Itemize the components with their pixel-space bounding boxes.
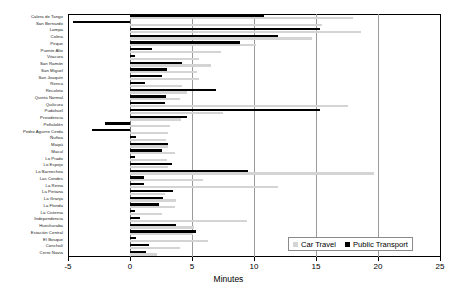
bar-car-travel xyxy=(130,24,322,26)
bar-row xyxy=(68,169,440,176)
bar-row xyxy=(68,68,440,75)
bar-car-travel xyxy=(130,37,312,39)
bar-car-travel xyxy=(130,152,175,154)
bar-car-travel xyxy=(130,71,197,73)
x-tick-25 xyxy=(440,257,441,261)
bar-row xyxy=(68,75,440,82)
bar-row xyxy=(68,196,440,203)
bar-car-travel xyxy=(130,91,187,93)
bar-row xyxy=(68,176,440,183)
category-label: Calera de Tango xyxy=(31,15,63,19)
bar-public-transport xyxy=(105,122,130,124)
x-tick-15 xyxy=(316,257,317,261)
bar-car-travel xyxy=(130,58,199,60)
chart-legend: Car Travel Public Transport xyxy=(288,237,413,251)
legend-label-public-transport: Public Transport xyxy=(353,240,408,249)
x-tick-label-25: 25 xyxy=(436,262,445,271)
bar-row xyxy=(68,203,440,210)
x-tick-label-20: 20 xyxy=(374,262,383,271)
bar-row xyxy=(68,55,440,62)
category-label: Maipú xyxy=(51,143,63,147)
bar-car-travel xyxy=(130,166,168,168)
bar-car-travel xyxy=(130,105,348,107)
bar-public-transport xyxy=(130,48,152,50)
bar-row xyxy=(68,190,440,197)
bar-car-travel xyxy=(130,179,203,181)
category-label: San Miguel xyxy=(41,69,63,73)
bar-car-travel xyxy=(130,125,170,127)
category-label: La Florida xyxy=(43,204,63,208)
category-label: Las Condes xyxy=(40,177,63,181)
x-tick-label-0: 0 xyxy=(128,262,132,271)
bar-car-travel xyxy=(130,193,165,195)
bar-row xyxy=(68,217,440,224)
bar-row xyxy=(68,102,440,109)
bar-row xyxy=(68,109,440,116)
bar-public-transport xyxy=(130,230,196,232)
bar-row xyxy=(68,14,440,21)
bar-car-travel xyxy=(130,233,193,235)
bar-public-transport xyxy=(130,116,187,118)
bar-car-travel xyxy=(130,64,211,66)
bar-public-transport xyxy=(130,176,144,178)
category-label: Cerro Navia xyxy=(40,251,63,255)
bar-public-transport xyxy=(130,102,165,104)
bar-car-travel xyxy=(130,85,182,87)
bar-car-travel xyxy=(130,226,194,228)
legend-item-public-transport: Public Transport xyxy=(345,240,408,249)
plot-area xyxy=(68,14,440,257)
bar-row xyxy=(68,48,440,55)
bar-car-travel xyxy=(130,118,181,120)
bar-public-transport xyxy=(130,109,320,111)
x-tick-label-10: 10 xyxy=(250,262,259,271)
category-label: Pedro Aguirre Cerda xyxy=(23,130,63,134)
bar-row xyxy=(68,88,440,95)
gridline-25 xyxy=(440,14,441,257)
category-label: Peñalolén xyxy=(43,123,63,127)
category-label: Renca xyxy=(50,82,63,86)
bar-car-travel xyxy=(130,17,353,19)
bar-row xyxy=(68,183,440,190)
bar-public-transport xyxy=(130,55,135,57)
category-label: Pirque xyxy=(50,42,63,46)
category-label: Pudahuel xyxy=(44,109,63,113)
bar-public-transport xyxy=(130,28,320,30)
bar-public-transport xyxy=(130,136,136,138)
bar-row xyxy=(68,210,440,217)
bar-car-travel xyxy=(130,78,199,80)
bar-public-transport xyxy=(130,224,176,226)
bar-car-travel xyxy=(130,31,361,33)
bar-car-travel xyxy=(130,213,162,215)
category-label: La Pintana xyxy=(42,190,63,194)
x-tick-0 xyxy=(130,257,131,261)
bar-car-travel xyxy=(130,112,223,114)
legend-item-car-travel: Car Travel xyxy=(293,240,336,249)
category-label: El Bosque xyxy=(43,238,63,242)
category-axis-labels: Calera de TangoSan BernardoLampaColinaPi… xyxy=(0,14,66,257)
bar-public-transport xyxy=(130,68,167,70)
category-label: La Reina xyxy=(45,184,63,188)
category-label: Puente Alto xyxy=(41,49,63,53)
bar-row xyxy=(68,156,440,163)
bar-public-transport xyxy=(130,149,162,151)
bar-car-travel xyxy=(130,253,157,255)
bar-public-transport xyxy=(130,82,145,84)
x-tick-label--5: -5 xyxy=(64,262,71,271)
bar-public-transport xyxy=(92,129,130,131)
x-tick-20 xyxy=(378,257,379,261)
bar-public-transport xyxy=(130,41,240,43)
x-axis-title: Minutes xyxy=(0,274,457,284)
x-axis: -50510152025 xyxy=(68,257,440,273)
category-label: Lo Barnechea xyxy=(36,170,63,174)
bar-row xyxy=(68,223,440,230)
bar-row xyxy=(68,163,440,170)
category-label: Lampa xyxy=(50,28,63,32)
x-tick-label-5: 5 xyxy=(190,262,194,271)
bar-car-travel xyxy=(130,159,167,161)
bar-car-travel xyxy=(130,139,166,141)
bar-row xyxy=(68,230,440,237)
legend-swatch-public-transport xyxy=(345,242,350,247)
bar-row xyxy=(68,250,440,257)
bar-car-travel xyxy=(130,51,221,53)
bar-row xyxy=(68,129,440,136)
